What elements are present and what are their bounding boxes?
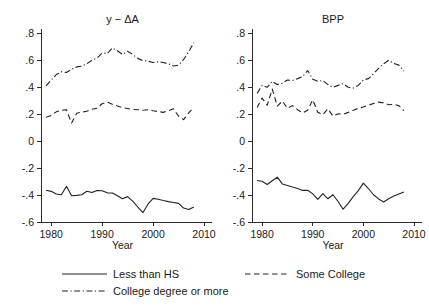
x-tick-label: 1990 xyxy=(90,228,114,240)
x-tick-label: 1990 xyxy=(301,228,325,240)
x-tick-label: 1980 xyxy=(250,228,274,240)
x-axis-title: Year xyxy=(322,239,344,251)
y-tick-label: .8 xyxy=(25,27,34,39)
y-tick-label: -.6 xyxy=(233,216,245,228)
y-tick-label: -.4 xyxy=(233,189,245,201)
y-tick-label: .4 xyxy=(25,81,34,93)
panel-right: BPP-.6-.4-.20.2.4.6.81980199020002010Yea… xyxy=(233,13,426,251)
x-tick-label: 2010 xyxy=(192,228,216,240)
x-tick-label: 1980 xyxy=(40,228,64,240)
y-tick-label: -.2 xyxy=(22,162,34,174)
y-tick-label: .2 xyxy=(236,108,245,120)
x-axis-title: Year xyxy=(112,239,134,251)
y-tick-label: -.6 xyxy=(22,216,34,228)
y-tick-label: .6 xyxy=(236,54,245,66)
y-tick-label: -.2 xyxy=(233,162,245,174)
series-line-college-degree-or-more xyxy=(257,60,404,93)
x-tick-label: 2000 xyxy=(141,228,165,240)
legend-label-2: College degree or more xyxy=(113,285,229,297)
panel-title: y − ΔA xyxy=(106,13,139,25)
panel-left: y − ΔA-.6-.4-.20.2.4.6.81980199020002010… xyxy=(22,13,216,251)
series-line-some-college xyxy=(46,102,194,123)
y-tick-label: .2 xyxy=(25,108,34,120)
x-tick-label: 2010 xyxy=(402,228,426,240)
series-line-less-than-hs xyxy=(257,177,404,209)
y-tick-label: .6 xyxy=(25,54,34,66)
y-tick-label: .4 xyxy=(236,81,245,93)
panel-title: BPP xyxy=(322,13,344,25)
series-line-college-degree-or-more xyxy=(46,43,194,86)
y-tick-label: .8 xyxy=(236,27,245,39)
two-panel-line-chart: y − ΔA-.6-.4-.20.2.4.6.81980199020002010… xyxy=(0,0,429,308)
legend: Less than HSSome CollegeCollege degree o… xyxy=(62,268,365,297)
legend-label-0: Less than HS xyxy=(113,268,179,280)
legend-label-1: Some College xyxy=(296,268,365,280)
y-tick-label: 0 xyxy=(28,135,34,147)
series-line-some-college xyxy=(257,89,404,116)
series-line-less-than-hs xyxy=(46,186,194,212)
x-tick-label: 2000 xyxy=(352,228,376,240)
y-tick-label: -.4 xyxy=(22,189,34,201)
figure-container: y − ΔA-.6-.4-.20.2.4.6.81980199020002010… xyxy=(0,0,429,308)
y-tick-label: 0 xyxy=(239,135,245,147)
